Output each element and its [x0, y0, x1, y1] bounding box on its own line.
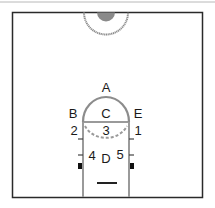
label-e: E — [134, 106, 143, 121]
block-marker-left — [78, 163, 82, 169]
label-d: D — [101, 151, 110, 166]
label-2: 2 — [70, 123, 77, 138]
label-b: B — [69, 106, 78, 121]
label-5: 5 — [116, 147, 123, 162]
label-a: A — [102, 80, 111, 95]
label-4: 4 — [88, 148, 95, 163]
label-1: 1 — [134, 123, 141, 138]
label-3: 3 — [102, 123, 109, 138]
court-boundary — [13, 13, 203, 198]
center-circle-fill — [97, 13, 115, 22]
court-diagram: A B C E 2 3 1 4 D 5 — [0, 0, 215, 208]
block-marker-right — [130, 163, 134, 169]
label-c: C — [101, 106, 110, 121]
